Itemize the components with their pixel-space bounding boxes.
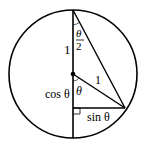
half-angle-denominator: 2: [76, 40, 82, 52]
right-angle-marker: [73, 108, 80, 114]
center-point: [71, 72, 76, 77]
upper-radius-label: 1: [64, 42, 71, 57]
angle-arc: [73, 78, 79, 81]
sin-label: sin θ: [87, 110, 110, 124]
diagram-svg: 1 θ 2 1 cos θ θ sin θ: [0, 0, 142, 147]
half-angle-arc: [73, 22, 80, 25]
circle-diagram: 1 θ 2 1 cos θ θ sin θ: [0, 0, 142, 147]
angle-label: θ: [76, 84, 82, 98]
cos-label: cos θ: [45, 87, 70, 101]
half-angle-numerator: θ: [76, 27, 82, 39]
radius-label: 1: [95, 73, 101, 87]
